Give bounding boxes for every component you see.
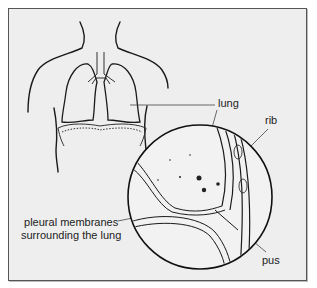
label-rib: rib xyxy=(265,114,277,127)
diaphragm xyxy=(58,124,146,146)
label-lung: lung xyxy=(218,97,239,110)
label-pleural-line2: surrounding the lung xyxy=(21,229,121,242)
label-pleural-line1: pleural membranes xyxy=(21,216,121,229)
diagram-artwork xyxy=(0,0,317,288)
label-pleural-membranes: pleural membranes surrounding the lung xyxy=(21,216,121,242)
label-pus: pus xyxy=(262,254,280,267)
magnified-view xyxy=(128,120,272,272)
lungs-outline xyxy=(62,64,140,123)
